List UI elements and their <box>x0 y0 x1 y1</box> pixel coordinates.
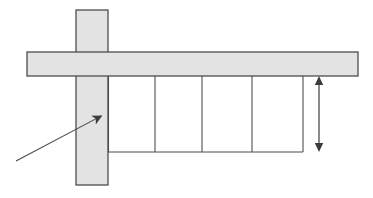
horizontal-band <box>27 52 358 76</box>
diagram-svg <box>0 0 373 198</box>
diagram-canvas <box>0 0 373 198</box>
diagram-background <box>0 0 373 198</box>
vertical-band <box>76 10 108 185</box>
band-intersection <box>77 53 106 74</box>
